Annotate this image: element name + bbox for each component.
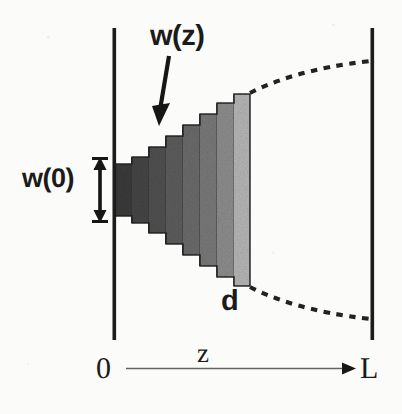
beam-step-5: [182, 125, 200, 255]
divergence-curves: [250, 61, 370, 319]
medium-thickness-label: d: [221, 285, 239, 318]
beam-step-6: [199, 114, 217, 266]
w0-dimension-arrow: [92, 157, 108, 223]
lower-divergence-curve: [250, 287, 370, 319]
beam-step-7: [216, 103, 234, 277]
beam-step-3: [148, 147, 166, 233]
z-axis-arrow: [126, 363, 356, 375]
beam-waist-label: w(0): [22, 163, 74, 194]
beam-waist-figure: w(z) w(0) d 0 z L: [0, 0, 402, 414]
upper-divergence-curve: [250, 61, 370, 93]
beam-step-2: [131, 157, 149, 223]
beam-step-4: [165, 136, 183, 244]
beam-step-8: [233, 94, 250, 286]
stepped-beam-envelope: [114, 94, 250, 286]
axis-origin-label: 0: [96, 352, 111, 386]
axis-variable-label: z: [197, 338, 209, 369]
right-mirror: [371, 28, 375, 340]
beam-step-1: [114, 164, 132, 216]
left-mirror: [113, 28, 117, 340]
beam-width-label: w(z): [150, 20, 204, 53]
wz-arrow: [152, 56, 170, 126]
axis-end-label: L: [360, 352, 378, 386]
